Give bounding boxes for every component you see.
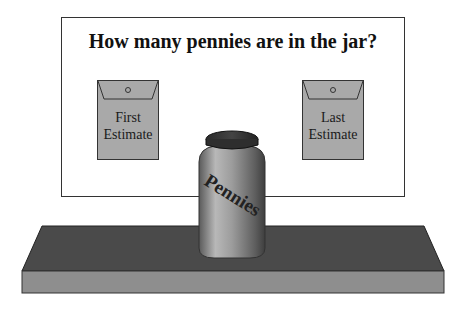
shelf-and-jar-scene: Pennies	[0, 0, 467, 311]
penny-jar[interactable]: Pennies	[199, 131, 265, 258]
